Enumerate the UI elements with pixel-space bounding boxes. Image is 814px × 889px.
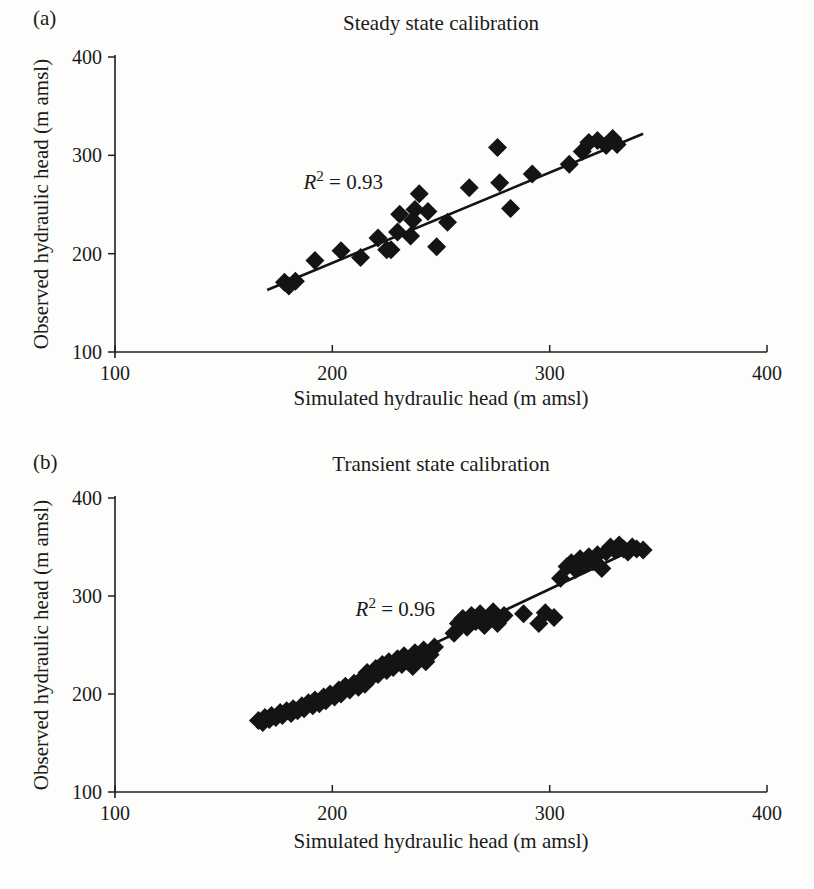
panel-a-y-axis-label: Observed hydraulic head (m amsl) [29, 59, 54, 349]
x-tick-label: 100 [100, 362, 130, 384]
x-tick-label: 300 [535, 802, 565, 824]
y-tick-label: 300 [72, 585, 102, 607]
panel-b-label: (b) [33, 450, 58, 475]
data-point [488, 138, 507, 157]
panel-a-x-axis-label: Simulated hydraulic head (m amsl) [115, 386, 767, 411]
data-point [418, 202, 437, 221]
panel-b-y-axis-label: Observed hydraulic head (m amsl) [29, 500, 54, 790]
panel-b-x-axis-label: Simulated hydraulic head (m amsl) [115, 829, 767, 854]
y-tick-label: 200 [72, 683, 102, 705]
x-tick-label: 200 [317, 802, 347, 824]
scatter-plots-canvas: 1002003004001002003004001002003004001002… [0, 0, 814, 889]
panel-b-r-squared-annotation: R2 = 0.96 [356, 594, 435, 621]
data-point [410, 184, 429, 203]
r-variable: R [303, 169, 316, 193]
y-tick-label: 100 [72, 781, 102, 803]
x-tick-label: 400 [752, 802, 782, 824]
x-tick-label: 400 [752, 362, 782, 384]
data-point [427, 237, 446, 256]
panel-a-label: (a) [33, 6, 56, 31]
y-tick-label: 300 [72, 144, 102, 166]
x-tick-label: 100 [100, 802, 130, 824]
data-point [514, 604, 533, 623]
axis-lines [115, 55, 767, 352]
y-tick-label: 400 [72, 487, 102, 509]
x-tick-label: 200 [317, 362, 347, 384]
r-variable: R [356, 596, 369, 620]
x-tick-label: 300 [535, 362, 565, 384]
r-value: = 0.96 [376, 596, 435, 620]
trend-line [267, 134, 643, 290]
panel-a-title: Steady state calibration [115, 11, 767, 36]
y-tick-label: 100 [72, 341, 102, 363]
panel-a-r-squared-annotation: R2 = 0.93 [303, 167, 382, 194]
r-value: = 0.93 [324, 169, 383, 193]
y-tick-label: 400 [72, 46, 102, 68]
calibration-scatter-figure: 1002003004001002003004001002003004001002… [0, 0, 814, 889]
panel-b-title: Transient state calibration [115, 452, 767, 477]
y-tick-label: 200 [72, 243, 102, 265]
data-point [460, 178, 479, 197]
data-point [501, 199, 520, 218]
trend-line [261, 546, 641, 725]
